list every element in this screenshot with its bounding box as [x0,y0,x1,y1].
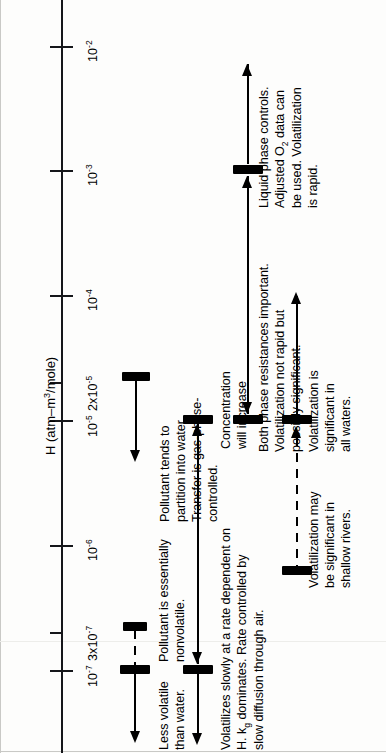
axis-ticklabel-1e-6: 10-6 [84,539,101,561]
dashed-connector-nonvolatile [134,630,136,670]
arrowhead-up-slowly [192,424,202,436]
arrowhead-up-both-phase [242,176,252,188]
axis-ticklabel-3e-7: 3x10-7 [84,626,101,661]
stem-concentration-down [197,674,199,738]
axis-tick-3e-7 [50,632,63,634]
axis-tick-1e-7 [50,670,73,672]
stem-liquid-phase [247,64,249,164]
scan-line-faint [0,641,386,642]
page-edge-bottom [0,751,386,752]
axis-tick-1e-3 [50,170,73,172]
range-bar-slowly-bottom [183,665,213,674]
stem-nonvolatile-down [134,674,136,736]
note-liquid-phase: Liquid phase controls. Adjusted O2 data … [257,87,322,208]
axis-ticklabel-2e-5: 2x10-5 [84,376,101,411]
axis-ticklabel-1e-3: 10-3 [84,164,101,186]
note-shallow-rivers: Volatilization may be significant in sha… [307,492,355,588]
range-bar-1e-7 [120,665,150,674]
dashed-connector-shallow-rivers [296,437,298,567]
arrowhead-down-slowly [192,652,202,664]
range-bar-slowly-top [183,415,213,424]
axis-ticklabel-1e-2: 10-2 [84,40,101,62]
stem-gas-phase-down [135,380,137,455]
axis-tick-1e-6 [50,545,73,547]
note-concentration-visible: Volatilizes slowly at a rate dependent o… [219,524,235,746]
arrowhead-down-concentration [192,733,202,745]
axis-title: H (atm–m3/mole) [42,357,59,455]
axis-ticklabel-1e-7: 10-7 [84,665,101,687]
axis-tick-1e-2 [50,46,73,48]
axis-ticklabel-1e-5: 10-5 [84,415,101,437]
note-less-volatile: Less volatile than water. [157,681,189,750]
arrowhead-down-both-phase [242,402,252,414]
axis-spine [61,0,63,753]
arrowhead-down-nonvolatile [130,731,140,743]
note-all-waters: Volatilization is significant in all wat… [307,370,355,452]
axis-tick-1e-4 [50,295,73,297]
note-nonvolatile: Pollutant is essentially nonvolatile. [157,539,189,662]
figure-canvas: 10-2 10-3 10-4 2x10-5 10-5 10-6 3x10-7 1… [0,0,386,753]
arrowhead-up-liquid-phase [242,64,252,76]
stem-both-phase [247,176,249,414]
arrowhead-down-gas-phase [130,450,140,462]
stem-slowly [197,424,199,664]
axis-ticklabel-1e-4: 10-4 [84,289,101,311]
stem-all-waters [296,296,298,416]
arrowhead-up-all-waters [291,292,301,304]
